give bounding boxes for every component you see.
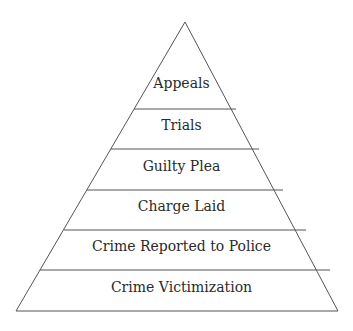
level-guilty-plea: Guilty Plea — [5, 157, 353, 175]
level-crime-victimization: Crime Victimization — [5, 278, 353, 296]
level-trials: Trials — [5, 116, 353, 134]
level-charge-laid: Charge Laid — [5, 197, 353, 215]
level-crime-reported: Crime Reported to Police — [5, 237, 353, 255]
level-appeals: Appeals — [5, 74, 353, 92]
